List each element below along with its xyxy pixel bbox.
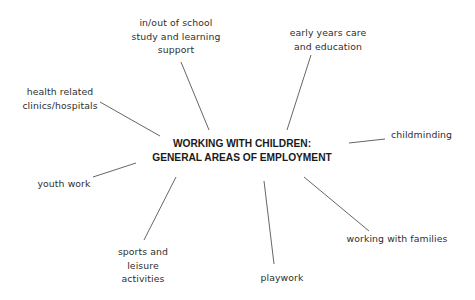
node-line: in/out of school [116,16,236,30]
node-line: sports and [93,245,193,259]
node-working-with-families: working with families [336,232,458,246]
connector-working-with-families [304,177,369,231]
connector-youth-work [93,163,136,177]
node-line: clinics/hospitals [5,99,115,113]
node-childminding: childminding [391,128,452,142]
node-line: playwork [237,271,327,285]
node-line: youth work [14,177,114,191]
node-sports-leisure: sports and leisure activities [93,245,193,286]
node-line: early years care [273,26,383,40]
node-line: childminding [391,128,452,142]
node-line: and education [273,40,383,54]
connector-sports-leisure [144,177,176,240]
node-health-related: health related clinics/hospitals [5,85,115,112]
node-line: working with families [336,232,458,246]
mind-map-diagram: WORKING WITH CHILDREN: GENERAL AREAS OF … [0,0,475,300]
central-topic: WORKING WITH CHILDREN: GENERAL AREAS OF … [142,137,342,164]
node-in-out-of-school: in/out of school study and learning supp… [116,16,236,57]
central-topic-line-1: WORKING WITH CHILDREN: [142,137,342,151]
central-topic-line-2: GENERAL AREAS OF EMPLOYMENT [142,151,342,165]
connector-childminding [349,139,385,143]
node-line: study and learning [116,30,236,44]
connector-in-out-of-school [181,62,209,130]
node-line: leisure [93,259,193,273]
node-line: health related [5,85,115,99]
node-line: support [116,43,236,57]
node-playwork: playwork [237,271,327,285]
node-early-years: early years care and education [273,26,383,53]
node-youth-work: youth work [14,177,114,191]
connector-early-years [287,55,311,130]
node-line: activities [93,272,193,286]
connector-playwork [264,181,274,264]
